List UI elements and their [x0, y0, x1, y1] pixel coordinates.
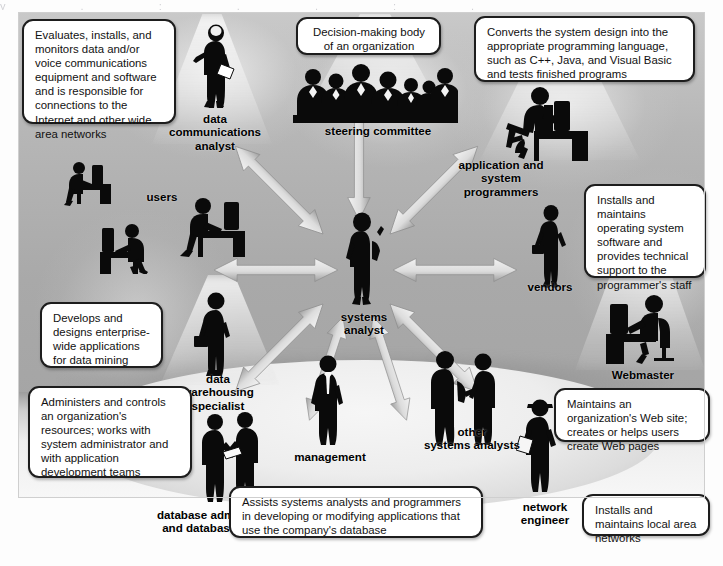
- callout-data-communications-analyst: Evaluates, installs, and monitors data a…: [22, 19, 176, 124]
- callout-webmaster: Maintains an organization's Web site; cr…: [554, 388, 710, 442]
- role-label-webmaster: Webmaster: [597, 368, 689, 381]
- silhouette-user-2: [178, 196, 252, 258]
- silhouette-application-and-system-programmers: [500, 85, 596, 163]
- role-label-application-and-system-programmers: application and system programmers: [437, 158, 565, 198]
- callout-application-and-system-programmers: Converts the system design into the appr…: [474, 16, 695, 82]
- callout-steering-committee: Decision-making body of an organization: [296, 17, 441, 55]
- callout-other-systems-analysts: Assists systems analysts and programmers…: [229, 486, 483, 538]
- silhouette-webmaster: [596, 292, 692, 368]
- callout-data-warehousing-specialist: Develops and designs enterprise-wide app…: [40, 302, 163, 368]
- silhouette-management: [308, 355, 348, 445]
- clipped-top-text: y , ; . , ; .: [0, 0, 723, 10]
- callout-vendors: Installs and maintains operating system …: [584, 184, 706, 278]
- role-label-other-systems-analysts: other systems analysts: [410, 425, 534, 452]
- role-label-users: users: [134, 190, 190, 203]
- role-label-systems-analyst: systems analyst: [316, 310, 412, 337]
- callout-database-administrators: Administers and controls an organization…: [28, 386, 192, 478]
- callout-network-engineer: Installs and maintains local area networ…: [582, 494, 710, 536]
- role-label-steering-committee: steering committee: [308, 124, 448, 137]
- silhouette-user-1: [64, 160, 116, 206]
- silhouette-data-communications-analyst: [186, 24, 244, 122]
- silhouette-steering-committee: [293, 63, 458, 123]
- role-label-management: management: [268, 450, 392, 463]
- role-label-vendors: vendors: [512, 280, 588, 293]
- diagram-scene: y , ; . , ; .: [0, 0, 723, 566]
- silhouette-user-3: [96, 222, 154, 274]
- silhouette-systems-analyst: [341, 212, 387, 308]
- silhouette-data-warehousing-specialist: [192, 292, 236, 378]
